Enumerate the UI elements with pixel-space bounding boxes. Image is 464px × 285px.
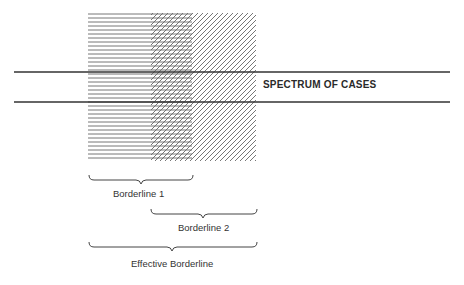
borderline-2-bracket — [151, 209, 257, 218]
spectrum-of-cases-label: SPECTRUM OF CASES — [263, 79, 376, 90]
borderline-2-label: Borderline 2 — [178, 222, 229, 233]
borderline-1-bracket — [89, 175, 193, 184]
borderline-1-hatch — [88, 14, 192, 158]
effective-borderline-bracket — [89, 242, 257, 251]
borderline-1-label: Borderline 1 — [113, 188, 164, 199]
effective-borderline-label: Effective Borderline — [131, 258, 213, 269]
borderline-diagram — [0, 0, 464, 285]
